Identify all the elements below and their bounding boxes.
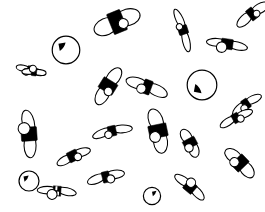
propeller-top-right-edge [205, 36, 249, 56]
propeller-center-v [144, 106, 172, 156]
propeller-lower-left-slant [54, 143, 93, 170]
propeller-left-vertical [17, 109, 39, 159]
propeller-top-right-narrow [171, 7, 195, 53]
blade-ring [19, 171, 39, 191]
propeller-bottom-center [85, 167, 126, 189]
blade-ring [187, 70, 217, 100]
hub-checker-cell [55, 186, 57, 190]
propeller-bottom-checkered [36, 184, 77, 201]
bead-circle [47, 189, 58, 200]
circle-mid-right [187, 70, 217, 100]
propeller-mid-left-v [90, 63, 127, 108]
bead-circle [18, 122, 31, 135]
blade-ring [143, 187, 160, 204]
propeller-top-center [90, 3, 144, 42]
bead-circle [29, 65, 37, 73]
sketch-canvas [0, 0, 265, 212]
circle-bottom-left [19, 171, 39, 191]
circle-top-left [52, 36, 80, 64]
propeller-upper-right-corner [233, 0, 265, 31]
propeller-center-low [90, 121, 133, 142]
circle-bottom-center [143, 187, 160, 204]
propeller-bottom-right [172, 168, 210, 203]
propeller-mid-center [123, 73, 170, 103]
blade-ring [52, 36, 80, 64]
propeller-center-small-v [176, 126, 203, 161]
propeller-lower-right-v [220, 143, 259, 183]
sketch-scene [0, 0, 265, 212]
